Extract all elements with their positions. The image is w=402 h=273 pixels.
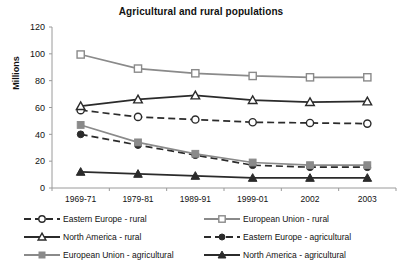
legend-label: European Union - agricultural <box>63 251 174 260</box>
data-point-marker <box>364 120 371 127</box>
legend-item-1[interactable]: Eastern Europe - rural <box>22 210 202 228</box>
legend-item-3[interactable]: North America - rural <box>22 228 202 246</box>
series-1 <box>77 107 371 128</box>
legend-label: Eastern Europe - agricultural <box>243 233 351 242</box>
data-point-marker <box>307 162 314 169</box>
legend-item-5[interactable]: European Union - agricultural <box>22 246 202 264</box>
legend-label: European Union - rural <box>243 215 329 224</box>
series-line <box>81 110 368 123</box>
data-point-marker <box>134 113 141 120</box>
series-line <box>81 134 368 167</box>
data-point-marker <box>192 70 199 77</box>
y-tick-label: 100 <box>30 49 45 59</box>
legend-swatch-filled-circle-icon <box>202 230 242 244</box>
data-point-marker <box>77 122 84 129</box>
data-point-marker <box>364 162 371 169</box>
series-6 <box>76 168 371 182</box>
series-line <box>81 172 368 178</box>
data-point-marker <box>306 119 313 126</box>
series-line <box>81 55 368 78</box>
series-5 <box>77 122 370 169</box>
legend-item-2[interactable]: European Union - rural <box>202 210 398 228</box>
x-tick-label: 1989-91 <box>180 194 211 204</box>
x-tick-label: 1979-81 <box>122 194 153 204</box>
x-tick-labels: 1969-711979-811989-911999-0120022003 <box>65 194 377 204</box>
data-point-marker <box>249 72 256 79</box>
data-point-marker <box>364 74 371 81</box>
y-tick-label: 40 <box>35 130 45 140</box>
x-tick-label: 1999-01 <box>237 194 268 204</box>
x-tick-label: 2002 <box>301 194 320 204</box>
data-point-marker <box>249 119 256 126</box>
chart-container: Agricultural and rural populations Milli… <box>0 0 402 273</box>
data-point-marker <box>306 74 313 81</box>
legend-swatch-open-circle-icon <box>22 212 62 226</box>
series-3 <box>76 91 371 109</box>
data-point-marker <box>249 159 256 166</box>
legend-item-4[interactable]: Eastern Europe - agricultural <box>202 228 398 246</box>
series-layer <box>76 51 371 181</box>
data-point-marker <box>219 234 225 240</box>
legend-swatch-filled-square-icon <box>22 248 62 262</box>
legend-label: North America - agricultural <box>243 251 346 260</box>
legend-label: Eastern Europe - rural <box>63 215 147 224</box>
plot-area: 020406080100120 1969-711979-811989-91199… <box>0 0 402 210</box>
data-point-marker <box>192 150 199 157</box>
series-line <box>81 95 368 106</box>
x-tick-label: 1969-71 <box>65 194 96 204</box>
data-point-marker <box>39 216 45 222</box>
legend-swatch-open-triangle-icon <box>22 230 62 244</box>
y-tick-label: 80 <box>35 76 45 86</box>
data-point-marker <box>77 131 84 138</box>
data-point-marker <box>219 216 225 222</box>
legend-item-6[interactable]: North America - agricultural <box>202 246 398 264</box>
series-line <box>81 125 368 165</box>
chart-legend: Eastern Europe - ruralEuropean Union - r… <box>22 210 398 264</box>
data-point-marker <box>38 233 46 240</box>
data-point-marker <box>135 139 142 146</box>
legend-swatch-filled-triangle-icon <box>202 248 242 262</box>
y-tick-labels: 020406080100120 <box>30 22 45 193</box>
data-point-marker <box>39 252 45 258</box>
legend-label: North America - rural <box>63 233 141 242</box>
y-tick-label: 60 <box>35 103 45 113</box>
y-tick-label: 0 <box>40 183 45 193</box>
series-2 <box>77 51 371 81</box>
legend-swatch-open-square-icon <box>202 212 242 226</box>
y-tick-label: 20 <box>35 156 45 166</box>
data-point-marker <box>134 65 141 72</box>
data-point-marker <box>192 116 199 123</box>
x-tick-label: 2003 <box>358 194 377 204</box>
y-tick-label: 120 <box>30 22 45 32</box>
data-point-marker <box>77 51 84 58</box>
